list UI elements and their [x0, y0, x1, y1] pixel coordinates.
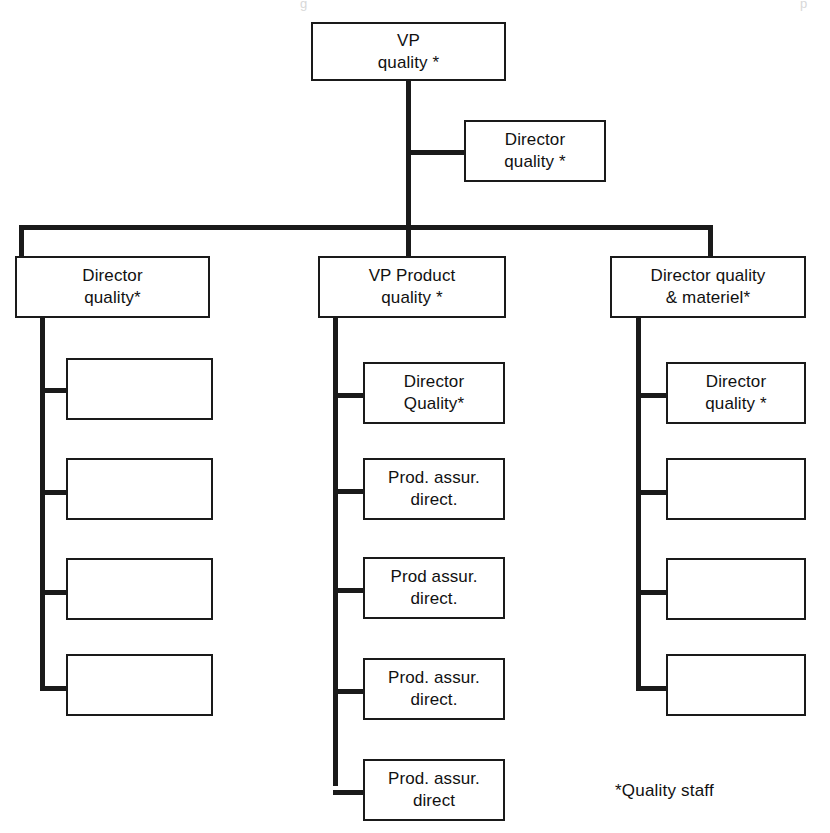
connector-right-stub-3: [636, 590, 668, 595]
connector-middle-stub-5: [333, 790, 365, 795]
connector-middle-stub-3: [333, 588, 365, 593]
node-middle-child-1-label: Director Quality*: [400, 371, 468, 415]
connector-right-stub-4: [636, 686, 668, 691]
node-middle-child-5-label: Prod. assur. direct: [384, 768, 484, 812]
connector-middle-stub-1: [333, 393, 365, 398]
connector-left-stub-2: [40, 490, 68, 495]
node-left-header[interactable]: Director quality*: [15, 256, 210, 318]
connector-branch-drop-middle: [406, 225, 411, 258]
connector-branch-bus: [19, 225, 713, 230]
node-left-child-4[interactable]: [66, 654, 213, 716]
page-bleed-right: p: [800, 0, 807, 11]
node-middle-child-2-label: Prod. assur. direct.: [384, 467, 484, 511]
node-middle-child-3-label: Prod assur. direct.: [386, 566, 481, 610]
connector-left-stub-1: [40, 388, 68, 393]
node-left-child-1[interactable]: [66, 358, 213, 420]
connector-left-stub-4: [40, 686, 68, 691]
node-vp-quality-label: VP quality *: [374, 30, 443, 74]
node-left-header-label: Director quality*: [78, 265, 146, 309]
node-middle-header-label: VP Product quality *: [365, 265, 460, 309]
connector-trunk-vertical: [406, 81, 411, 229]
node-right-header[interactable]: Director quality & materiel*: [610, 256, 806, 318]
node-middle-header[interactable]: VP Product quality *: [318, 256, 506, 318]
node-right-child-2[interactable]: [666, 458, 806, 520]
connector-branch-drop-right: [708, 225, 713, 258]
node-middle-child-2[interactable]: Prod. assur. direct.: [363, 458, 505, 520]
node-middle-child-4-label: Prod. assur. direct.: [384, 667, 484, 711]
node-vp-quality[interactable]: VP quality *: [311, 22, 506, 81]
connector-middle-stub-4: [333, 689, 365, 694]
connector-right-stub-2: [636, 490, 668, 495]
node-right-child-1[interactable]: Director quality *: [666, 362, 806, 424]
connector-middle-spine: [333, 318, 338, 786]
page-bleed-center: g: [300, 0, 307, 11]
node-right-header-label: Director quality & materiel*: [647, 265, 770, 309]
node-middle-child-5[interactable]: Prod. assur. direct: [363, 759, 505, 821]
node-right-child-3[interactable]: [666, 558, 806, 620]
connector-left-stub-3: [40, 590, 68, 595]
node-middle-child-4[interactable]: Prod. assur. direct.: [363, 658, 505, 720]
connector-staff-horizontal: [406, 150, 466, 155]
connector-left-spine: [40, 318, 45, 690]
node-middle-child-3[interactable]: Prod assur. direct.: [363, 557, 505, 619]
node-left-child-2[interactable]: [66, 458, 213, 520]
connector-branch-drop-left: [19, 225, 24, 258]
connector-right-stub-1: [636, 393, 668, 398]
node-right-child-1-label: Director quality *: [701, 371, 770, 415]
node-right-child-4[interactable]: [666, 654, 806, 716]
org-chart-diagram: g p VP quality * Director quality * Dire…: [0, 0, 830, 833]
node-left-child-3[interactable]: [66, 558, 213, 620]
node-staff-director-quality[interactable]: Director quality *: [464, 120, 606, 182]
connector-middle-stub-2: [333, 489, 365, 494]
footnote-quality-staff: *Quality staff: [615, 781, 714, 801]
node-middle-child-1[interactable]: Director Quality*: [363, 362, 505, 424]
connector-right-spine: [636, 318, 641, 690]
node-staff-director-quality-label: Director quality *: [500, 129, 569, 173]
